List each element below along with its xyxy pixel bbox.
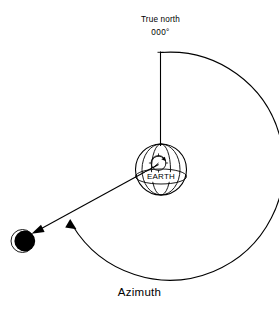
celestial-body-disc [14,231,35,252]
azimuth-arc-arrowhead [65,219,76,229]
azimuth-diagram: EARTH True north 000° Azimuth [0,0,279,314]
north-label-group: True north 000° [141,15,180,38]
north-bearing-label: 000° [151,28,170,37]
true-north-label: True north [141,15,180,24]
figure-caption: Azimuth [0,286,279,298]
earth-label: EARTH [147,172,175,181]
azimuth-arc [73,52,280,280]
azimuth-arc-group [65,52,279,280]
line-of-sight-group [32,165,159,234]
azimuth-figure-svg: EARTH True north 000° [0,0,279,314]
line-of-sight-arrowhead [32,225,45,234]
celestial-body-group [11,230,35,253]
line-of-sight [36,165,159,232]
north-reference-group [158,52,164,147]
